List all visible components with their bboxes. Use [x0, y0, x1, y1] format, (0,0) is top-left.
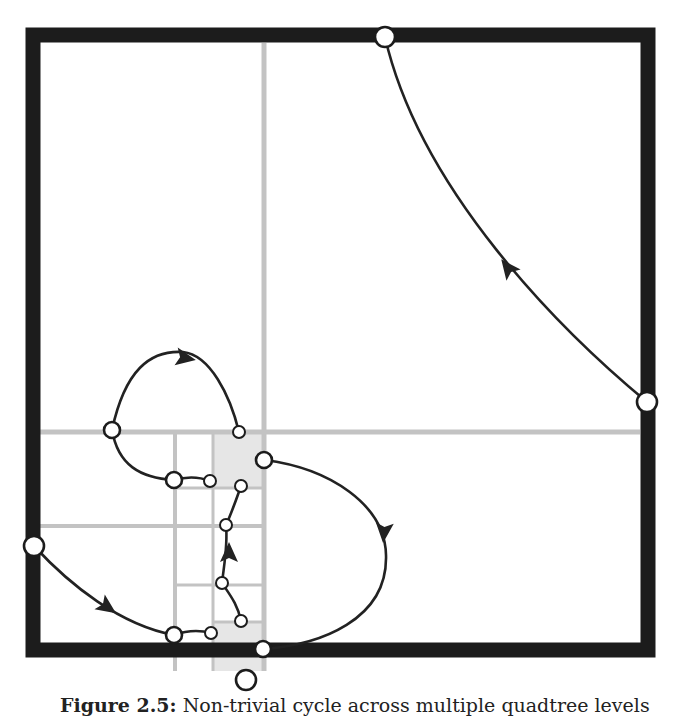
caption-label: Figure 2.5: [60, 694, 177, 716]
curve-top-right [385, 37, 647, 402]
node-d-small [216, 577, 228, 589]
cycle-nodes [24, 27, 657, 690]
node-upper-small [233, 426, 245, 438]
cycle-curves [34, 37, 647, 649]
node-right [637, 392, 657, 412]
curve-right-loop [263, 460, 386, 649]
node-c-small [220, 519, 232, 531]
curve-upper-loop [112, 352, 239, 432]
curve-bottom-left [34, 546, 174, 635]
arrow-right-loop-icon [374, 522, 394, 543]
node-a-large [166, 472, 182, 488]
curve-left-link [112, 430, 174, 480]
caption-text: Non-trivial cycle across multiple quadtr… [183, 694, 650, 716]
node-f-small [205, 627, 217, 639]
node-a-small [204, 475, 216, 487]
node-right-upper [256, 452, 272, 468]
node-bottom [236, 670, 256, 690]
shaded-cell [213, 434, 262, 488]
figure-caption: Figure 2.5: Non-trivial cycle across mul… [60, 694, 678, 716]
node-e-small [235, 615, 247, 627]
arrow-center-icon [220, 542, 238, 562]
node-top [375, 27, 395, 47]
arrow-bottom-left-icon [94, 594, 121, 620]
outer-frame [33, 35, 648, 650]
node-b-small [235, 480, 247, 492]
node-mid-left [104, 422, 120, 438]
arrow-top-right-icon [494, 254, 520, 281]
node-left [24, 536, 44, 556]
shaded-cells [213, 434, 262, 671]
node-right-lower [255, 641, 271, 657]
quadtree-grid-lines [40, 43, 640, 671]
direction-arrows [94, 254, 520, 621]
node-f-large [166, 627, 182, 643]
